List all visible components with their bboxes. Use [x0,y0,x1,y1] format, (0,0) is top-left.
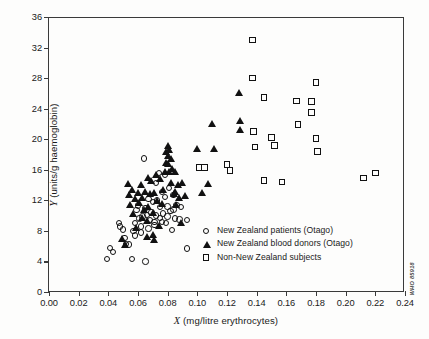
data-point-square [252,144,259,151]
data-point-triangle [161,168,169,175]
data-point-circle [147,217,153,223]
data-point-circle [141,155,147,161]
x-axis-title: X (mg/litre erythrocytes) [48,315,404,326]
data-point-circle [154,197,160,203]
data-point-circle [123,241,129,247]
data-point-circle [169,227,175,233]
data-point-triangle [132,224,140,231]
y-axis-tick [44,200,49,201]
data-point-triangle [164,142,172,149]
data-point-triangle [147,177,155,184]
y-axis-tick-label: 12 [32,195,42,205]
data-point-circle [150,199,156,205]
who-figure-credit: WHO 85918 [409,262,415,295]
data-point-circle [157,215,163,221]
x-axis-tick [49,291,50,296]
data-point-circle [145,196,151,202]
y-axis-tick [44,48,49,49]
data-point-circle [117,223,123,229]
data-point-square [271,142,278,149]
data-point-triangle [177,219,185,226]
data-point-triangle [129,210,137,217]
data-point-circle [151,219,157,225]
data-point-circle [153,180,159,186]
data-point-triangle [125,191,133,198]
data-point-circle [160,210,166,216]
y-axis-tick [44,139,49,140]
data-point-triangle [164,152,172,159]
data-point-triangle [121,241,129,248]
data-point-circle [159,219,165,225]
y-axis-tick-label: 0 [37,287,42,297]
data-point-triangle [236,117,244,124]
data-point-circle [166,185,172,191]
data-point-circle [164,213,170,219]
data-point-circle [144,212,150,218]
data-point-circle [163,220,169,226]
data-point-triangle [162,148,170,155]
data-point-circle [178,204,184,210]
x-axis-tick-label: 0.24 [396,298,414,308]
data-point-triangle [118,235,126,242]
legend: New Zealand patients (Otago)New Zealand … [203,224,353,264]
data-point-square [249,75,256,82]
data-point-triangle [141,188,149,195]
triangle-glyph-icon [203,241,211,248]
data-point-circle [170,192,176,198]
legend-marker-triangle-icon [203,241,217,248]
data-point-circle [162,172,168,178]
data-point-square [360,175,367,182]
y-axis-tick-label: 16 [32,165,42,175]
data-point-triangle [172,201,180,208]
data-point-circle [162,194,168,200]
x-axis-tick-label: 0.06 [129,298,147,308]
data-point-circle [151,222,157,228]
y-axis-tick-label: 36 [32,12,42,22]
data-point-triangle [149,231,157,238]
data-point-triangle [144,203,152,210]
data-point-circle [135,202,141,208]
x-axis-tick [257,291,258,296]
data-point-circle [116,220,122,226]
data-point-circle [176,216,182,222]
data-point-circle [138,229,144,235]
x-axis-tick-label: 0.16 [277,298,295,308]
x-axis-tick-label: 0.22 [366,298,384,308]
data-point-square [268,134,275,141]
data-point-triangle [198,189,206,196]
x-axis-tick [108,291,109,296]
data-point-triangle [178,179,186,186]
data-point-square [249,37,256,44]
x-axis-tick [375,291,376,296]
data-point-triangle [171,168,179,175]
y-axis-tick [44,109,49,110]
data-point-triangle [235,89,243,96]
data-point-triangle [165,146,173,153]
data-point-triangle [167,179,175,186]
data-point-triangle [150,189,158,196]
data-point-circle [132,232,138,238]
data-point-triangle [164,160,172,167]
data-point-triangle [126,201,134,208]
data-point-triangle [152,171,160,178]
data-point-square [261,177,268,184]
y-axis-tick [44,17,49,18]
data-point-triangle [171,188,179,195]
data-point-square [308,109,315,116]
x-axis-title-symbol: X [174,315,180,326]
x-axis-tick-label: 0.08 [159,298,177,308]
data-point-circle [133,207,139,213]
data-point-triangle [137,181,145,188]
y-axis-tick-label: 28 [32,73,42,83]
data-point-square [313,79,320,86]
data-point-circle [139,213,145,219]
legend-item: New Zealand patients (Otago) [203,224,353,237]
data-point-triangle [236,126,244,133]
legend-item-label: Non-New Zealand subjects [217,251,321,264]
x-axis-tick [227,291,228,296]
data-point-circle [184,217,190,223]
data-point-square [250,128,257,135]
data-point-square [314,148,321,155]
data-point-square [224,161,231,168]
legend-item: Non-New Zealand subjects [203,251,353,264]
